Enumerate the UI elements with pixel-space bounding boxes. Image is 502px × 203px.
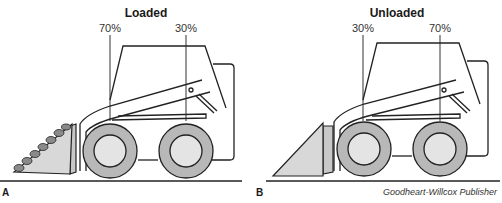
panel-b-rear-weight: 70% (429, 22, 451, 34)
panel-b-cab (363, 43, 480, 104)
publisher-credit: Goodheart-Willcox Publisher (383, 187, 498, 197)
panel-b-label: B (256, 187, 263, 198)
panel-a-rear-hub (170, 135, 202, 167)
panel-b-bucket (273, 123, 323, 176)
panel-b-cylinder-2 (452, 94, 470, 111)
panel-b-rear-hub (424, 133, 456, 165)
skid-steer-weight-distribution-diagram: Loaded 70% 30% (0, 0, 502, 203)
panel-b-cylinder-1 (449, 96, 467, 113)
panel-a-front-hub (94, 135, 126, 167)
panel-a-title: Loaded (125, 6, 168, 20)
panel-a-cab (110, 46, 226, 108)
panel-a-pivot (189, 88, 193, 92)
panel-b-frame-bar (366, 114, 460, 120)
panel-b-title: Unloaded (370, 6, 425, 20)
panel-b-front-weight: 30% (352, 22, 374, 34)
panel-a-label: A (2, 187, 9, 198)
panel-a-skid-steer (14, 46, 234, 178)
panel-a-cylinder-2 (199, 94, 217, 111)
panel-b-front-hub (348, 133, 380, 165)
panel-b-unloaded: Unloaded 30% 70% B (256, 6, 500, 198)
panel-b-bucket-back (323, 126, 333, 174)
panel-a-cylinder-1 (196, 96, 214, 113)
panel-a-loaded: Loaded 70% 30% (0, 6, 242, 198)
panel-b-rear-body (466, 61, 488, 156)
panel-b-pivot (442, 88, 446, 92)
panel-b-skid-steer (273, 43, 488, 176)
panel-a-rear-weight: 30% (175, 22, 197, 34)
panel-a-front-weight: 70% (99, 22, 121, 34)
